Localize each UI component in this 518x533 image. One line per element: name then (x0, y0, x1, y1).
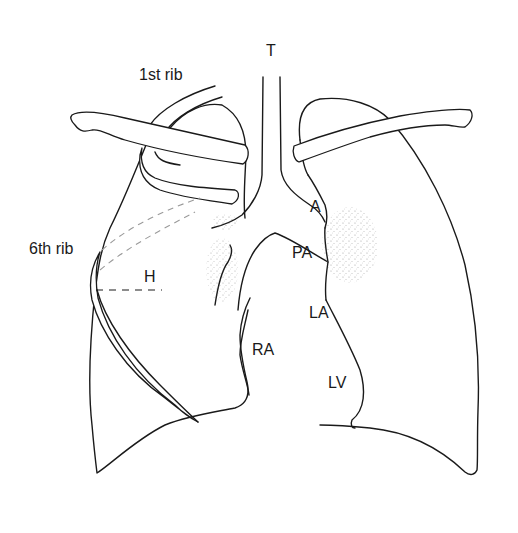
label-aorta: A (310, 198, 321, 215)
left-bronchus (238, 233, 328, 310)
sixth-rib-inner-edge (97, 290, 198, 422)
left-heart-border (326, 300, 364, 428)
label-right-atrium: RA (252, 341, 275, 358)
left-clavicle (293, 109, 472, 162)
right-hilum-stipple (206, 238, 238, 302)
chest-anatomy-diagram: T 1st rib 6th rib H A PA LA RA LV (0, 0, 518, 533)
label-sixth-rib: 6th rib (29, 240, 74, 257)
label-first-rib: 1st rib (139, 66, 183, 83)
label-horizontal-fissure: H (144, 268, 156, 285)
left-hilum-stipple (322, 207, 378, 283)
label-trachea: T (266, 42, 276, 59)
right-clavicle (71, 112, 248, 164)
right-hilum-stipple-upper (213, 214, 237, 230)
first-rib-arc-inner (166, 97, 222, 131)
right-rib-loop-inner (155, 152, 180, 165)
label-left-atrium: LA (309, 304, 329, 321)
sixth-rib-posterior-upper (102, 198, 200, 250)
label-pulmonary-artery: PA (292, 244, 312, 261)
label-left-ventricle: LV (328, 374, 347, 391)
